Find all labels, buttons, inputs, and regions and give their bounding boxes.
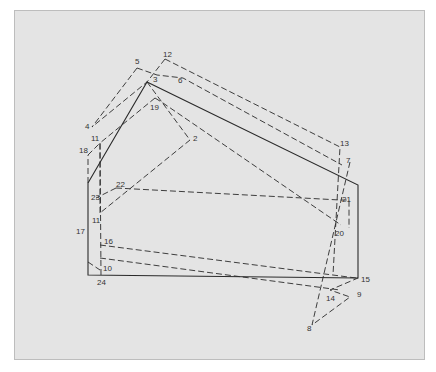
- vertex-label: 10: [103, 264, 112, 273]
- vertex-label: 14: [326, 294, 335, 303]
- vertex-label: 5: [135, 57, 140, 66]
- vertex-label: 9: [357, 290, 362, 299]
- vertex-label: 2: [193, 134, 198, 143]
- vertex-label: 12: [163, 50, 172, 59]
- vertex-label: 11: [92, 216, 101, 225]
- dashed-path: [165, 59, 340, 275]
- dashed-path: [116, 188, 349, 228]
- polygon-diagram: 2345678910111112131415161718192021222324: [0, 0, 436, 372]
- vertex-label: 22: [116, 180, 125, 189]
- vertex-label: 20: [335, 229, 344, 238]
- vertex-label: 11: [91, 134, 100, 143]
- dashed-path: [100, 258, 340, 290]
- vertex-label: 24: [97, 278, 106, 287]
- vertex-label: 15: [361, 275, 370, 284]
- dashed-path: [88, 262, 100, 270]
- vertex-label: 23: [91, 193, 100, 202]
- vertex-label: 8: [307, 324, 312, 333]
- dashed-path: [137, 68, 342, 165]
- vertex-label: 7: [346, 156, 351, 165]
- dashed-path: [100, 82, 190, 213]
- dashed-path: [100, 143, 101, 275]
- vertex-label: 13: [340, 139, 349, 148]
- vertex-label: 6: [178, 76, 183, 85]
- vertex-label: 19: [150, 103, 159, 112]
- dashed-path: [155, 98, 341, 225]
- vertex-label: 21: [342, 195, 351, 204]
- dashed-path: [88, 143, 100, 155]
- dashed-path: [92, 59, 165, 127]
- vertex-label: 17: [76, 227, 85, 236]
- dashed-path: [100, 245, 356, 278]
- vertex-label: 18: [79, 146, 88, 155]
- vertex-label: 4: [85, 122, 90, 131]
- vertex-label: 16: [104, 237, 113, 246]
- vertex-label: 3: [153, 75, 158, 84]
